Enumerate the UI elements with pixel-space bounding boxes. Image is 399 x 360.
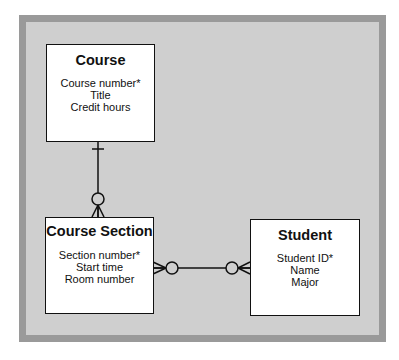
- entity-title: Course: [47, 52, 154, 68]
- entity-student: Student Student ID* Name Major: [250, 219, 360, 316]
- entity-course: Course Course number* Title Credit hours: [46, 44, 155, 142]
- crows-foot-icon: [238, 262, 250, 274]
- attribute: Student ID*: [251, 252, 359, 264]
- attribute: Room number: [46, 273, 153, 285]
- entity-title: Student: [251, 227, 359, 243]
- attribute: Section number*: [46, 249, 153, 261]
- attribute: Course number*: [47, 77, 154, 89]
- crows-foot-icon: [92, 205, 104, 217]
- zero-circle-icon: [226, 262, 238, 274]
- attribute: Start time: [46, 261, 153, 273]
- entity-course-section: Course Section Section number* Start tim…: [45, 217, 154, 314]
- attribute: Title: [47, 89, 154, 101]
- entity-attributes: Student ID* Name Major: [251, 252, 359, 288]
- entity-attributes: Course number* Title Credit hours: [47, 77, 154, 113]
- attribute: Major: [251, 276, 359, 288]
- crows-foot-icon: [153, 262, 166, 274]
- attribute: Name: [251, 264, 359, 276]
- attribute: Credit hours: [47, 101, 154, 113]
- entity-attributes: Section number* Start time Room number: [46, 249, 153, 285]
- entity-title: Course Section: [46, 223, 153, 239]
- zero-circle-icon: [166, 262, 178, 274]
- zero-circle-icon: [92, 193, 104, 205]
